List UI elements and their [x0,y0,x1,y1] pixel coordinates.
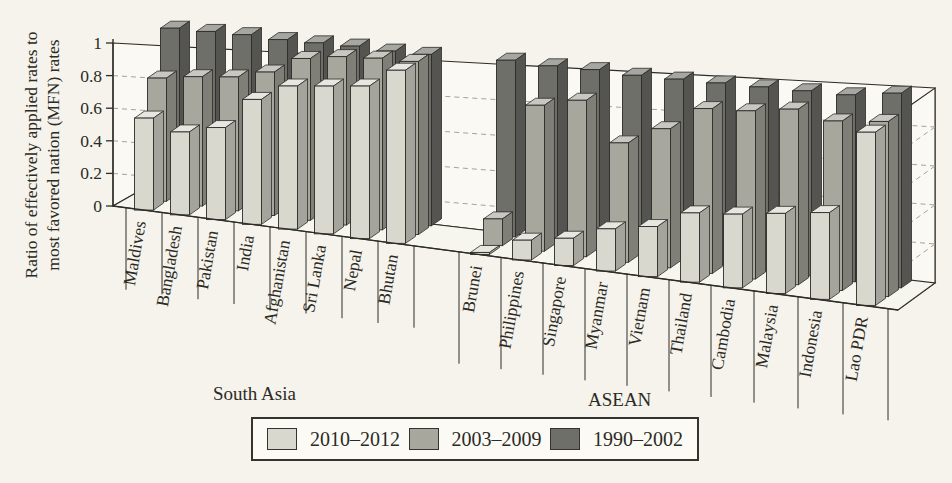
y-axis-title-line2: most favored nation (MFN) rates [43,5,65,305]
bar-Bhutan-2010–2012 [387,63,416,243]
category-label-maldives: Maldives [119,219,150,287]
bar-Sri Lanka-2010–2012 [315,79,344,234]
bar-Malaysia-2010–2012 [767,206,796,293]
category-label-bangladesh: Bangladesh [152,224,186,308]
bar-side-face [658,220,668,277]
bar-front-face [767,213,786,293]
bar-side-face [799,102,809,285]
bar-front-face [484,219,503,246]
bar-front-face [811,213,830,300]
bar-side-face [700,206,710,282]
bar-front-face [315,86,334,234]
bar-front-face [279,86,298,229]
legend: 2010–2012 2003–2009 1990–2002 [251,417,699,461]
y-axis-title: Ratio of effectively applied rates to mo… [21,5,65,305]
y-tick-label: 0.8 [80,66,102,86]
bar-front-face [243,99,262,224]
legend-label: 2010–2012 [310,428,400,451]
legend-swatch [409,428,439,450]
bar-Singapore-2010–2012 [555,231,584,265]
bar-side-face [419,54,429,234]
bar-side-face [713,102,723,274]
bar-front-face [724,214,743,288]
bar-Brunei-2003–2009 [484,212,513,246]
category-label-sri-lanka: Sri Lanka [298,243,330,314]
bar-front-face [857,132,876,305]
bar-front-face [171,132,190,215]
bar-side-face [600,63,610,248]
bar-front-face [387,70,406,243]
bar-side-face [743,207,753,288]
bar-front-face [555,238,574,265]
bar-front-face [351,86,370,239]
bar-Maldives-2010–2012 [135,111,164,210]
bar-side-face [262,92,272,224]
category-label-malaysia: Malaysia [751,303,782,370]
category-label-pakistan: Pakistan [192,229,222,291]
bar-Pakistan-2010–2012 [207,121,236,220]
legend-item: 1990–2002 [550,428,683,451]
category-label-vietnam: Vietnam [624,285,654,347]
bar-Afghanistan-2010–2012 [279,79,308,229]
bar-side-face [756,104,766,279]
bar-front-face [639,227,658,277]
category-label-brunei: Brunei [458,264,486,315]
category-label-india: India [232,233,258,272]
bar-front-face [681,213,700,282]
bar-side-face [516,53,526,237]
bar-side-face [786,206,796,293]
y-tick-label: 1 [93,33,102,53]
bar-side-face [406,63,416,243]
bar-side-face [154,111,164,210]
bar-India-2010–2012 [243,92,272,224]
bar-side-face [226,121,236,220]
bar-side-face [298,79,308,229]
bar-side-face [843,114,853,291]
bar-Lao PDR-2010–2012 [857,125,886,305]
y-tick-label: 0.4 [80,131,102,151]
category-label-nepal: Nepal [339,248,366,293]
legend-label: 1990–2002 [593,428,683,451]
y-tick-label: 0 [93,196,102,216]
bar-side-face [671,122,681,268]
bar-Philippines-2003–2009 [526,98,555,251]
category-label-thailand: Thailand [665,291,696,356]
bar-side-face [902,86,912,288]
bar-side-face [432,47,442,225]
y-tick-label: 0.2 [80,163,102,183]
bar-front-face [135,118,154,210]
legend-swatch [550,428,580,450]
bar-side-face [587,93,597,256]
category-label-cambodia: Cambodia [707,297,739,372]
bar-front-face [597,229,616,271]
category-label-philippines: Philippines [495,269,528,350]
group-label-asean: ASEAN [588,389,651,411]
legend-item: 2010–2012 [267,428,400,451]
bar-front-face [207,128,226,220]
group-label-south-asia: South Asia [213,383,296,405]
legend-label: 2003–2009 [452,428,542,451]
bar-Indonesia-2010–2012 [811,206,840,300]
bar-front-face [526,105,545,251]
bar-chart-3d: 10.80.60.40.20MaldivesBangladeshPakistan… [0,0,952,483]
bar-Philippines-2010–2012 [513,233,542,260]
y-tick-label: 0.6 [80,98,102,118]
category-label-afghanistan: Afghanistan [259,238,294,326]
bar-side-face [558,59,568,243]
bar-side-face [876,125,886,305]
bar-side-face [370,79,380,239]
bar-side-face [190,125,200,215]
category-label-lao-pdr: Lao PDR [841,314,872,382]
bar-side-face [616,222,626,271]
figure-page: { "y_axis": { "title_line1": "Ratio of e… [0,0,952,483]
bar-Cambodia-2010–2012 [724,207,753,288]
bar-Brunei-1990–2002 [497,53,526,237]
y-axis-title-line1: Ratio of effectively applied rates to [21,5,43,305]
bar-side-face [889,114,899,296]
legend-item: 2003–2009 [409,428,542,451]
bar-Bangladesh-2010–2012 [171,125,200,215]
bar-Myanmar-2010–2012 [597,222,626,271]
bar-side-face [545,98,555,251]
bar-Thailand-2010–2012 [681,206,710,282]
bar-side-face [830,206,840,300]
